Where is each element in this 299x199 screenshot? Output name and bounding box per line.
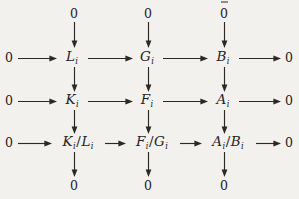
node-base: K	[65, 91, 75, 107]
diagram-node-n-r3-FG: Fi/Gi	[136, 135, 168, 150]
vertical-arrow	[69, 22, 80, 48]
horizontal-arrow	[18, 138, 52, 149]
vertical-arrow	[219, 152, 230, 177]
node-base: G	[140, 48, 151, 64]
vertical-arrow	[69, 152, 80, 177]
horizontal-arrow	[180, 138, 202, 149]
diagram-node-n-top-0-col3: 0	[220, 8, 228, 21]
vertical-arrow	[143, 22, 154, 48]
horizontal-arrow	[163, 96, 208, 107]
node-base-denominator: L	[81, 133, 90, 149]
horizontal-arrow	[163, 53, 208, 64]
node-subscript: i	[227, 99, 230, 109]
diagram-node-n-r3-KL: Ki/Li	[63, 135, 94, 150]
node-subscript: i	[76, 99, 79, 109]
diagram-node-n-top-0-col1: 0	[70, 8, 78, 21]
diagram-node-n-r2-A: Ai	[217, 93, 230, 108]
diagram-node-n-r1-L: Li	[66, 50, 78, 65]
node-subscript-denominator: i	[241, 141, 244, 151]
diagram-node-n-bot-0-col3: 0	[220, 180, 228, 193]
horizontal-arrow	[88, 53, 133, 64]
node-subscript: i	[151, 56, 154, 66]
node-base: F	[136, 133, 145, 149]
node-base: L	[66, 48, 75, 64]
node-subscript-denominator: i	[91, 141, 94, 151]
horizontal-arrow	[18, 53, 57, 64]
vertical-arrow	[143, 152, 154, 177]
node-base-denominator: B	[231, 133, 241, 149]
vertical-arrow	[219, 22, 230, 48]
vertical-arrow	[69, 110, 80, 134]
node-base: K	[63, 133, 73, 149]
node-subscript: i	[227, 56, 230, 66]
vertical-arrow	[219, 110, 230, 134]
diagram-node-n-r2-zero-right: 0	[285, 95, 293, 108]
diagram-node-n-r1-G: Gi	[140, 50, 154, 65]
diagram-node-n-r1-zero-right: 0	[285, 52, 293, 65]
diagram-node-n-r2-K: Ki	[65, 93, 78, 108]
node-base: A	[212, 133, 222, 149]
diagram-node-n-bot-0-col2: 0	[144, 180, 152, 193]
horizontal-arrow	[88, 96, 133, 107]
horizontal-arrow	[239, 53, 281, 64]
scan-artifact	[221, 1, 228, 3]
diagram-node-n-r2-F: Fi	[141, 93, 153, 108]
diagram-node-n-bot-0-col1: 0	[70, 180, 78, 193]
node-base: B	[216, 48, 226, 64]
horizontal-arrow	[18, 96, 57, 107]
vertical-arrow	[219, 67, 230, 92]
quotient-slash: /	[149, 133, 154, 149]
diagram-node-n-top-0-col2: 0	[144, 8, 152, 21]
diagram-node-n-r3-zero-right: 0	[285, 137, 293, 150]
vertical-arrow	[69, 67, 80, 92]
quotient-slash: /	[76, 133, 81, 149]
diagram-node-n-r1-zero-left: 0	[5, 52, 13, 65]
vertical-arrow	[143, 110, 154, 134]
node-base: F	[141, 91, 150, 107]
node-base-denominator: G	[154, 133, 165, 149]
node-subscript: i	[73, 141, 76, 151]
horizontal-arrow	[256, 138, 281, 149]
commutative-diagram: 0000LiGiBi00KiFiAi00Ki/LiFi/GiAi/Bi0000	[0, 0, 299, 199]
node-base: A	[217, 91, 227, 107]
node-subscript-denominator: i	[165, 141, 168, 151]
horizontal-arrow	[105, 138, 126, 149]
diagram-node-n-r2-zero-left: 0	[5, 95, 13, 108]
node-subscript: i	[151, 99, 154, 109]
vertical-arrow	[143, 67, 154, 92]
node-subscript: i	[75, 56, 78, 66]
diagram-node-n-r1-B: Bi	[216, 50, 229, 65]
horizontal-arrow	[239, 96, 281, 107]
diagram-node-n-r3-AB: Ai/Bi	[212, 135, 244, 150]
diagram-node-n-r3-zero-left: 0	[5, 137, 13, 150]
